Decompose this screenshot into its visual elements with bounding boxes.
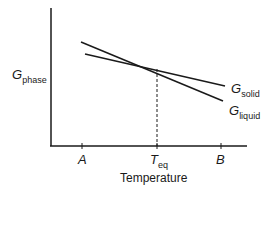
series-label-liquid: Gliquid	[229, 104, 260, 117]
x-tick-label-teq: Teq	[150, 153, 168, 166]
x-axis-label: Temperature	[120, 172, 187, 184]
liquid-line	[81, 42, 223, 101]
y-axis-label: Gphase	[12, 68, 47, 81]
x-tick-label-b: B	[216, 153, 225, 166]
series-label-solid: Gsolid	[231, 82, 260, 95]
solid-line	[85, 54, 225, 86]
x-tick-label-a: A	[78, 153, 87, 166]
